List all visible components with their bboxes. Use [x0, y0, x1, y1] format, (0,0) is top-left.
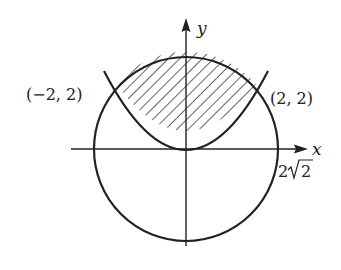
y-axis-label: y [196, 18, 207, 38]
radius-label: 2 2 [278, 160, 313, 181]
x-axis-label: x [312, 139, 322, 159]
point-label-right: (2, 2) [270, 89, 313, 108]
diagram-canvas: y x (−2, 2) (2, 2) 2 2 [0, 0, 341, 270]
diagram: y x (−2, 2) (2, 2) 2 2 [0, 0, 341, 270]
radius-label-coefficient: 2 [278, 162, 288, 181]
point-label-left: (−2, 2) [26, 85, 82, 104]
radius-label-radicand: 2 [301, 162, 311, 181]
